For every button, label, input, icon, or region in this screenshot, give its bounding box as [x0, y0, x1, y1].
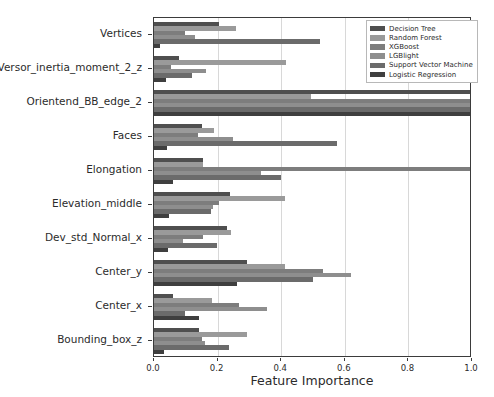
y-tick-label: Orientend_BB_edge_2: [26, 96, 142, 107]
bar-group: [154, 90, 470, 116]
y-tick-label: Bounding_box_z: [57, 334, 142, 345]
x-tick-label: 0.4: [273, 363, 287, 373]
bar-group: [154, 294, 470, 320]
legend-label: Random Forest: [389, 34, 442, 42]
x-tick-mark: [407, 358, 408, 361]
bar: [154, 345, 229, 349]
y-tick-label: Elongation: [86, 164, 142, 175]
bar-group: [154, 192, 470, 218]
bar-group: [154, 260, 470, 286]
y-tick-mark: [148, 306, 152, 307]
legend-item[interactable]: Decision Tree: [370, 24, 473, 33]
feature-importance-chart-figure: VerticesVersor_inertia_moment_2_zOriente…: [0, 0, 494, 397]
x-axis-tick-labels: 0.00.20.40.60.81.0: [153, 358, 471, 374]
legend-swatch-icon: [370, 63, 385, 69]
bar: [154, 282, 237, 286]
legend-label: Logistic Regression: [389, 71, 456, 79]
y-tick-mark: [148, 170, 152, 171]
y-tick-label: Elevation_middle: [52, 198, 142, 209]
x-tick-mark: [471, 358, 472, 361]
legend-swatch-icon: [370, 72, 385, 78]
legend-label: LGBlight: [389, 52, 419, 60]
legend-label: Support Vector Machine: [389, 61, 473, 69]
bar-group: [154, 158, 470, 184]
x-tick-label: 0.0: [146, 363, 160, 373]
y-tick-mark: [148, 102, 152, 103]
x-tick-mark: [153, 358, 154, 361]
y-tick-mark: [148, 34, 152, 35]
y-tick-label: Faces: [113, 130, 142, 141]
legend-swatch-icon: [370, 26, 385, 32]
x-tick-label: 0.6: [337, 363, 351, 373]
legend-label: XGBoost: [389, 43, 419, 51]
legend-item[interactable]: Support Vector Machine: [370, 61, 473, 70]
x-tick-mark: [217, 358, 218, 361]
y-tick-mark: [148, 204, 152, 205]
x-tick-mark: [344, 358, 345, 361]
legend-item[interactable]: XGBoost: [370, 42, 473, 51]
legend-swatch-icon: [370, 35, 385, 41]
y-tick-mark: [148, 272, 152, 273]
bar: [154, 78, 166, 82]
bar-group: [154, 226, 470, 252]
bar: [154, 248, 168, 252]
bar: [154, 350, 164, 354]
bar: [154, 214, 169, 218]
y-axis-labels: VerticesVersor_inertia_moment_2_zOriente…: [0, 17, 148, 357]
y-tick-label: Versor_inertia_moment_2_z: [0, 62, 142, 73]
y-tick-label: Center_y: [95, 266, 142, 277]
x-tick-label: 1.0: [464, 363, 478, 373]
y-tick-mark: [148, 238, 152, 239]
bar: [154, 39, 320, 43]
x-axis-title: Feature Importance: [153, 373, 471, 388]
bar: [154, 180, 173, 184]
bar: [154, 146, 167, 150]
y-tick-label: Center_x: [95, 300, 142, 311]
legend-item[interactable]: Logistic Regression: [370, 70, 473, 79]
bar: [154, 112, 471, 116]
y-tick-mark: [148, 136, 152, 137]
bar: [154, 175, 281, 179]
legend-item[interactable]: Random Forest: [370, 33, 473, 42]
legend-item[interactable]: LGBlight: [370, 52, 473, 61]
y-tick-mark: [148, 68, 152, 69]
legend-swatch-icon: [370, 44, 385, 50]
y-tick-label: Vertices: [100, 28, 142, 39]
bar: [154, 60, 286, 64]
bar-group: [154, 124, 470, 150]
y-tick-label: Dev_std_Normal_x: [45, 232, 142, 243]
bar: [154, 316, 199, 320]
x-tick-label: 0.2: [210, 363, 224, 373]
bar-group: [154, 328, 470, 354]
bar: [154, 44, 160, 48]
chart-legend: Decision TreeRandom ForestXGBoostLGBligh…: [366, 20, 478, 83]
legend-label: Decision Tree: [389, 25, 436, 33]
y-tick-mark: [148, 340, 152, 341]
bar: [154, 141, 337, 145]
legend-swatch-icon: [370, 53, 385, 59]
x-tick-mark: [280, 358, 281, 361]
x-tick-label: 0.8: [401, 363, 415, 373]
